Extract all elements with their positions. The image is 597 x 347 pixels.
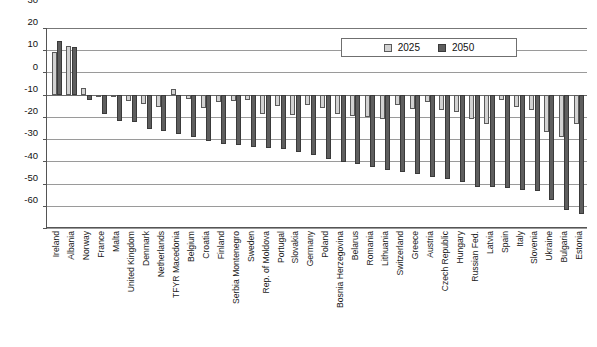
y-axis-tick-labels: 3020100-10-20-30-40-50-60 bbox=[0, 0, 44, 200]
x-axis-label-cell: Spain bbox=[497, 228, 512, 346]
x-axis-label-cell: Sweden bbox=[243, 228, 258, 346]
x-axis-label: Germany bbox=[306, 231, 315, 266]
x-axis-label-cell: Slovenia bbox=[527, 228, 542, 346]
bar-2025 bbox=[111, 95, 116, 97]
bar-2050 bbox=[385, 95, 390, 171]
bar-group bbox=[140, 28, 155, 227]
x-axis-label-cell: Belgium bbox=[183, 228, 198, 346]
x-axis-label: Malta bbox=[112, 231, 121, 252]
bar-2050 bbox=[400, 95, 405, 173]
x-axis-label: Romania bbox=[366, 231, 375, 265]
bar-2050 bbox=[206, 95, 211, 142]
bar-group bbox=[259, 28, 274, 227]
bar-2050 bbox=[221, 95, 226, 144]
legend-swatch-2050 bbox=[438, 44, 446, 52]
bar-group bbox=[468, 28, 483, 227]
bar-2050 bbox=[341, 95, 346, 163]
y-axis-tick-label: 10 bbox=[0, 44, 38, 54]
x-axis-label-cell: Slovakia bbox=[288, 228, 303, 346]
x-axis-label: Italy bbox=[515, 231, 524, 247]
bar-2025 bbox=[350, 95, 355, 116]
bar-2050 bbox=[117, 95, 122, 122]
bar-group bbox=[184, 28, 199, 227]
bar-group bbox=[557, 28, 572, 227]
x-axis-label-cell: Austria bbox=[422, 228, 437, 346]
x-axis-label-cell: Serbia Montenegro bbox=[228, 228, 243, 346]
bar-2025 bbox=[245, 95, 250, 101]
bar-2025 bbox=[514, 95, 519, 107]
x-axis-label-cell: Finland bbox=[213, 228, 228, 346]
bar-group bbox=[453, 28, 468, 227]
bar-2025 bbox=[380, 95, 385, 119]
x-axis-label: Portugal bbox=[276, 231, 285, 263]
bar-2025 bbox=[186, 95, 191, 99]
x-axis-label-cell: Netherlands bbox=[154, 228, 169, 346]
bar-group bbox=[423, 28, 438, 227]
x-axis-label: Netherlands bbox=[157, 231, 166, 277]
x-axis-label: Slovakia bbox=[291, 231, 300, 263]
x-axis-label-cell: Greece bbox=[408, 228, 423, 346]
bar-2025 bbox=[395, 95, 400, 105]
bar-2025 bbox=[216, 95, 221, 103]
bar-group bbox=[304, 28, 319, 227]
x-axis-label: Ireland bbox=[52, 231, 61, 257]
x-axis-label: France bbox=[97, 231, 106, 258]
x-axis-label-cell: Czech Republic bbox=[437, 228, 452, 346]
bar-group bbox=[348, 28, 363, 227]
y-axis-tick-label: 20 bbox=[0, 22, 38, 32]
bar-group bbox=[438, 28, 453, 227]
bar-2025 bbox=[156, 95, 161, 107]
bar-2050 bbox=[266, 95, 271, 148]
bar-2025 bbox=[529, 95, 534, 111]
bar-series-group bbox=[47, 28, 587, 227]
x-axis-label: TFYR Macedonia bbox=[172, 231, 181, 298]
bar-2050 bbox=[132, 95, 137, 123]
bar-2050 bbox=[460, 95, 465, 183]
bar-group bbox=[289, 28, 304, 227]
bar-2025 bbox=[544, 95, 549, 133]
chart-legend: 2025 2050 bbox=[341, 38, 517, 57]
bar-2025 bbox=[126, 95, 131, 102]
x-axis-label: Lithuania bbox=[381, 231, 390, 266]
x-axis-label-cell: Ukraine bbox=[542, 228, 557, 346]
x-axis-label-cell: Norway bbox=[79, 228, 94, 346]
x-axis-label-cell: United Kingdom bbox=[124, 228, 139, 346]
bar-2025 bbox=[410, 95, 415, 109]
bar-2025 bbox=[335, 95, 340, 114]
x-axis-label: Belarus bbox=[351, 231, 360, 260]
bar-2050 bbox=[490, 95, 495, 187]
x-axis-label: Rep. of Moldova bbox=[261, 231, 270, 294]
bar-2050 bbox=[475, 95, 480, 187]
legend-item-2050: 2050 bbox=[438, 43, 474, 53]
x-axis-label-cell: Denmark bbox=[139, 228, 154, 346]
x-axis-label: Bosnia Herzegovina bbox=[336, 231, 345, 308]
x-axis-category-labels: IrelandAlbaniaNorwayFranceMaltaUnited Ki… bbox=[46, 228, 587, 346]
bar-2050 bbox=[520, 95, 525, 191]
bar-group bbox=[199, 28, 214, 227]
y-axis-tick-label: -10 bbox=[0, 89, 38, 99]
x-axis-label-cell: Bulgaria bbox=[557, 228, 572, 346]
x-axis-label-cell: Belarus bbox=[348, 228, 363, 346]
x-axis-label-cell: Switzerland bbox=[393, 228, 408, 346]
bar-group bbox=[542, 28, 557, 227]
bar-group bbox=[393, 28, 408, 227]
x-axis-label-cell: Italy bbox=[512, 228, 527, 346]
x-axis-label: Croatia bbox=[202, 231, 211, 259]
bar-2025 bbox=[425, 95, 430, 103]
x-axis-label-cell: Malta bbox=[109, 228, 124, 346]
x-axis-label-cell: Germany bbox=[303, 228, 318, 346]
bar-2050 bbox=[161, 95, 166, 132]
x-axis-label: Russian Fed. bbox=[470, 231, 479, 282]
bar-group bbox=[408, 28, 423, 227]
bar-2050 bbox=[370, 95, 375, 167]
bar-group bbox=[334, 28, 349, 227]
x-axis-label: Greece bbox=[411, 231, 420, 259]
bar-2050 bbox=[296, 95, 301, 153]
bar-2025 bbox=[454, 95, 459, 113]
bar-2050 bbox=[505, 95, 510, 188]
x-axis-label: Belgium bbox=[187, 231, 196, 262]
x-axis-label-cell: Portugal bbox=[273, 228, 288, 346]
bar-2025 bbox=[141, 95, 146, 104]
x-axis-label: Finland bbox=[216, 231, 225, 259]
bar-2025 bbox=[365, 95, 370, 117]
